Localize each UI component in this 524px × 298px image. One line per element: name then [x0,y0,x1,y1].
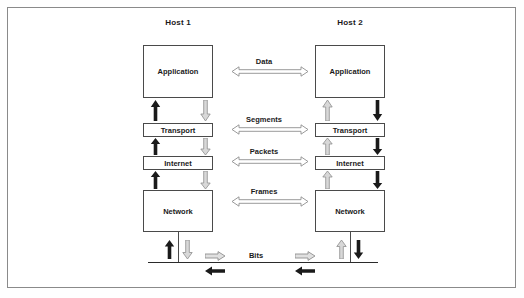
host2-down-arrow-transport-internet [372,138,383,155]
host2-down-arrow-app-transport [372,100,383,121]
host1-network-medium-connector [178,232,179,262]
host2-down-arrow-network-medium [353,240,364,259]
protocol-stack-diagram: Host 1 Host 2 Application Transport Inte… [0,0,524,298]
peer-label-data: Data [219,57,309,66]
bits-return-arrow-1 [205,266,225,276]
host2-up-arrow-network-medium [336,240,347,259]
peer-arrow-segments [232,124,308,135]
host2-up-arrow-app-transport [322,100,333,121]
host2-network-medium-connector [350,232,351,262]
host2-layer-network: Network [315,190,385,232]
bits-forward-arrow-2 [295,251,315,261]
transmission-medium-line [148,262,378,263]
host2-up-arrow-transport-internet [322,138,333,155]
bits-label: Bits [228,251,284,260]
host2-layer-transport: Transport [315,123,385,137]
host1-down-arrow-app-transport [200,100,211,121]
bits-forward-arrow-1 [205,251,225,261]
host1-up-arrow-network-medium [164,240,175,259]
peer-label-frames: Frames [219,187,309,196]
host1-layer-network: Network [143,190,213,232]
host1-down-arrow-transport-internet [200,138,211,155]
host1-up-arrow-transport-internet [150,138,161,155]
host1-down-arrow-internet-network [200,171,211,189]
host2-layer-internet: Internet [315,156,385,170]
host1-title: Host 1 [138,18,218,27]
peer-label-packets: Packets [219,147,309,156]
peer-label-segments: Segments [219,115,309,124]
peer-arrow-packets [232,156,308,167]
host1-layer-transport: Transport [143,123,213,137]
bits-return-arrow-2 [295,266,315,276]
host2-layer-application: Application [315,45,385,98]
host1-up-arrow-app-transport [150,100,161,121]
host2-title: Host 2 [310,18,390,27]
peer-arrow-frames [232,196,308,207]
host2-down-arrow-internet-network [372,171,383,189]
host1-up-arrow-internet-network [150,171,161,189]
host1-down-arrow-network-medium [182,240,193,259]
peer-arrow-data [232,66,308,77]
host1-layer-internet: Internet [143,156,213,170]
host1-layer-application: Application [143,45,213,98]
host2-up-arrow-internet-network [322,171,333,189]
